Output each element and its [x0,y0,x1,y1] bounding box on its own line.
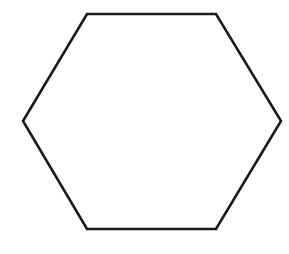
diagram-canvas [0,0,289,254]
hexagon-diagram [0,0,289,254]
hexagon-shape [23,14,281,229]
